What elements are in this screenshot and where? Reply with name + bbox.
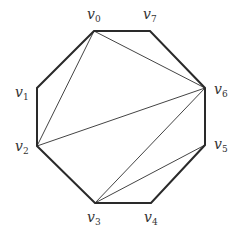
vertex-label-v3: v3: [87, 209, 101, 227]
vertex-label-v5: v5: [214, 136, 228, 154]
vertex-label-v4: v4: [144, 209, 158, 227]
vertex-label-v0: v0: [87, 6, 101, 24]
vertex-label-v7: v7: [143, 6, 157, 24]
diagonals: [37, 31, 205, 203]
octagon-triangulation-diagram: v0v1v2v3v4v5v6v7: [0, 0, 245, 233]
vertex-label-v6: v6: [214, 81, 228, 99]
diagonal-v3-v6: [95, 88, 205, 203]
diagonal-v3-v5: [95, 145, 205, 203]
vertex-label-v2: v2: [15, 138, 29, 156]
diagonal-v2-v6: [37, 88, 205, 146]
diagonal-v0-v6: [94, 31, 205, 88]
vertex-label-v1: v1: [15, 84, 29, 102]
